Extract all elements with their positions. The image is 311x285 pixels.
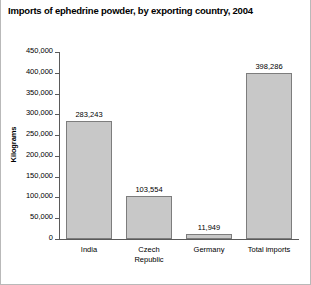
y-axis-tick-label: 150,000 [26,171,53,180]
y-axis-tick-label: 100,000 [26,191,53,200]
tick-mark [55,197,59,198]
x-axis-line [59,239,299,240]
plot-area: 050,000100,000150,000200,000250,000300,0… [59,52,299,239]
bar-value-label: 11,949 [179,223,239,232]
y-axis-tick-label: 350,000 [26,88,53,97]
y-axis-tick-label: 300,000 [26,108,53,117]
x-axis-category-label: Czech Republic [117,245,181,264]
y-axis-tick-label: 450,000 [26,46,53,55]
tick-mark [55,73,59,74]
bar [126,196,172,239]
y-axis-title: Kilograms [9,115,18,175]
y-axis-tick-label: 400,000 [26,67,53,76]
tick-mark [55,94,59,95]
tick-mark [55,239,59,240]
tick-mark [55,177,59,178]
y-axis-line [59,52,60,239]
y-axis-tick-label: 250,000 [26,129,53,138]
y-axis-tick-label: 200,000 [26,150,53,159]
chart-title: Imports of ephedrine powder, by exportin… [8,5,308,16]
bar-value-label: 398,286 [239,62,299,71]
tick-mark [55,135,59,136]
bar [66,121,112,239]
x-axis-category-label: Total imports [237,245,301,255]
bar-value-label: 103,554 [119,185,179,194]
bar-value-label: 283,243 [59,110,119,119]
y-axis-tick-label: 0 [49,233,53,242]
x-axis-category-label: India [57,245,121,255]
x-axis-category-label: Germany [177,245,241,255]
tick-mark [55,52,59,53]
chart-figure: Imports of ephedrine powder, by exportin… [0,0,311,285]
bar [186,234,232,239]
bar [246,73,292,239]
y-axis-tick-label: 50,000 [30,212,53,221]
tick-mark [55,156,59,157]
tick-mark [55,218,59,219]
